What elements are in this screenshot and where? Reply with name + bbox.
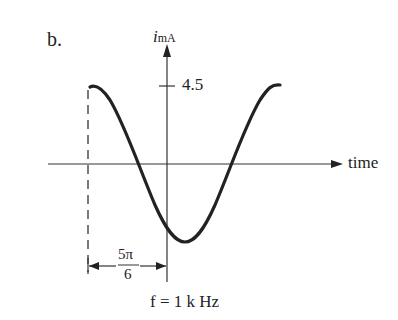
y-axis-label-sub: mA xyxy=(158,31,176,45)
y-axis-label: imA xyxy=(153,27,176,47)
dim-arrow-right-icon xyxy=(156,262,166,270)
x-axis-arrow-icon xyxy=(331,160,343,168)
frequency-label: f = 1 k Hz xyxy=(150,292,219,312)
x-axis-label: time xyxy=(348,153,378,173)
panel-label: b. xyxy=(47,28,62,51)
dim-arrow-left-icon xyxy=(89,262,99,270)
figure-root: b. imA 4.5 time 5π 6 f = 1 k Hz xyxy=(0,0,398,320)
peak-tick-label: 4.5 xyxy=(182,75,203,95)
phase-denominator: 6 xyxy=(124,266,132,283)
phase-numerator: 5π xyxy=(118,246,133,263)
